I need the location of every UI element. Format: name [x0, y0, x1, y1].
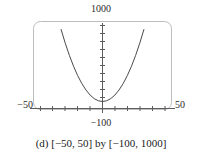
y-min-label: −100: [0, 117, 202, 128]
plot-area: [0, 0, 202, 132]
x-max-label: 50: [175, 99, 201, 110]
graph-figure: 1000: [0, 0, 202, 159]
x-min-label: −50: [3, 99, 33, 110]
figure-caption: (d) [−50, 50] by [−100, 1000]: [0, 136, 202, 150]
